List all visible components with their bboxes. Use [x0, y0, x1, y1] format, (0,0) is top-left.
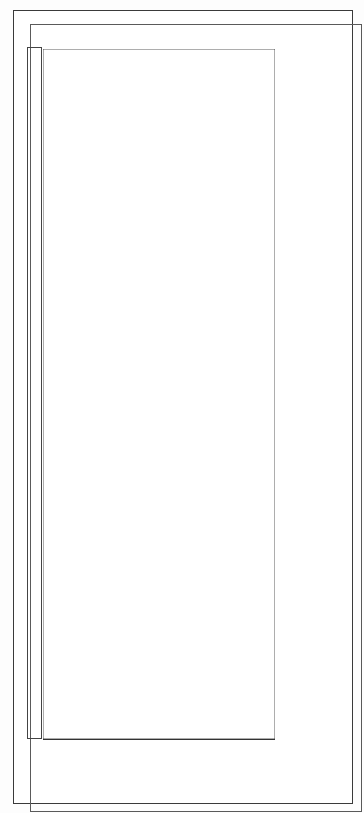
- chainage-ruler: [27, 47, 42, 739]
- cross-section-plot: [43, 49, 275, 739]
- title-block: [21, 266, 23, 536]
- legend: [279, 101, 337, 641]
- strata-svg: [43, 49, 275, 739]
- depth-axis-line: [43, 739, 275, 740]
- plot-frame: [43, 49, 275, 739]
- rotated-drawing-wrapper: [0, 0, 364, 813]
- geological-section-canvas: [17, 21, 347, 791]
- depth-axis: [43, 739, 275, 777]
- page-root: [0, 0, 364, 813]
